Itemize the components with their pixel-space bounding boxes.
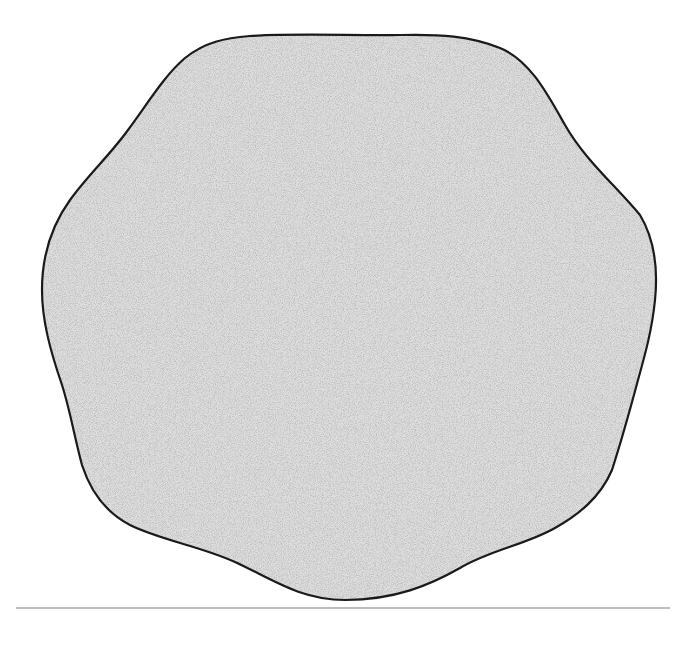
stippled-blob-figure (0, 0, 679, 645)
